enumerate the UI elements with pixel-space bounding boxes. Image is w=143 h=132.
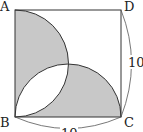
geometry-figure: A D B C 10 10 [0, 0, 143, 132]
vertex-label-a: A [0, 0, 10, 14]
vertex-label-d: D [124, 0, 134, 14]
vertex-label-b: B [0, 115, 10, 130]
dimension-label-dc: 10 [128, 55, 143, 70]
vertex-label-c: C [124, 115, 134, 130]
dimension-label-bc: 10 [61, 126, 78, 132]
